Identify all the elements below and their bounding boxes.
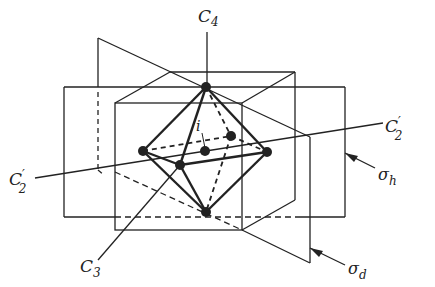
- sigma-h-label: σh: [378, 165, 397, 188]
- sigma-h-arrowhead: [345, 153, 358, 162]
- sigma-d-label: σd: [348, 259, 367, 282]
- atoms: [138, 82, 272, 217]
- octahedron-symmetry-diagram: C4 C′2 C′2 C3 σh σd i: [0, 0, 435, 287]
- c2-prime-left-label: C′2: [9, 168, 26, 196]
- inversion-center-label: i: [196, 118, 200, 134]
- c4-label: C4: [198, 6, 219, 29]
- sigma-d-arrowhead: [310, 248, 323, 257]
- c2-prime-right-label: C′2: [385, 115, 402, 143]
- diagram-svg: C4 C′2 C′2 C3 σh σd i: [0, 0, 435, 287]
- c3-axis: [98, 165, 180, 260]
